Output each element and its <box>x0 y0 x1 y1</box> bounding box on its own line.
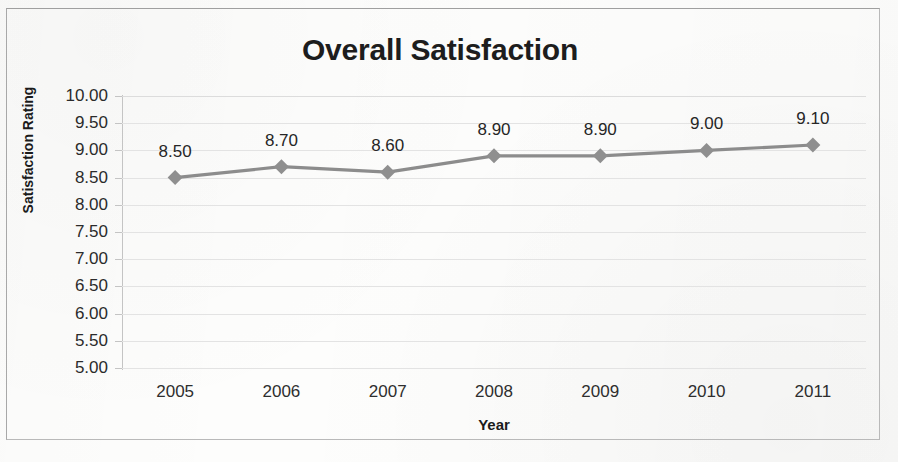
y-axis-tick-label: 5.50 <box>46 331 108 351</box>
y-axis-tick-label: 7.50 <box>46 222 108 242</box>
data-label: 9.10 <box>768 109 858 129</box>
data-point-marker <box>274 159 289 174</box>
chart-title: Overall Satisfaction <box>0 33 880 67</box>
x-axis-tick-label: 2008 <box>434 382 554 402</box>
x-axis-tick-label: 2009 <box>540 382 660 402</box>
y-axis-tick <box>115 341 122 342</box>
x-axis-tick-label: 2006 <box>221 382 341 402</box>
x-axis-tick-label: 2011 <box>753 382 873 402</box>
y-axis-title: Satisfaction Rating <box>20 60 36 240</box>
y-axis-tick <box>115 150 122 151</box>
y-axis-tick <box>115 314 122 315</box>
data-point-marker <box>593 148 608 163</box>
data-point-marker <box>487 148 502 163</box>
y-axis-tick-label: 9.50 <box>46 113 108 133</box>
y-axis-tick <box>115 368 122 369</box>
y-axis-tick <box>115 205 122 206</box>
chart-figure: Overall Satisfaction Satisfaction Rating… <box>0 0 898 462</box>
y-axis-tick-label: 8.50 <box>46 168 108 188</box>
y-axis-tick-label: 6.00 <box>46 304 108 324</box>
data-label: 8.50 <box>130 142 220 162</box>
y-axis-tick <box>115 123 122 124</box>
plot-area: 8.508.708.608.908.909.009.10 <box>122 96 866 368</box>
x-axis-tick-label: 2010 <box>647 382 767 402</box>
y-axis-tick <box>115 259 122 260</box>
y-axis-tick-labels: 10.009.509.008.508.007.507.006.506.005.5… <box>46 96 108 368</box>
data-label: 8.70 <box>236 131 326 151</box>
data-point-marker <box>699 143 714 158</box>
y-axis-tick-label: 7.00 <box>46 249 108 269</box>
x-axis-title: Year <box>122 416 866 433</box>
y-axis-tick <box>115 96 122 97</box>
y-axis-tick <box>115 286 122 287</box>
x-axis-tick-label: 2007 <box>328 382 448 402</box>
data-point-marker <box>168 170 183 185</box>
y-axis-tick-label: 10.00 <box>46 86 108 106</box>
data-point-marker <box>380 165 395 180</box>
y-axis-tick-label: 6.50 <box>46 276 108 296</box>
y-axis-tick-label: 8.00 <box>46 195 108 215</box>
y-axis-tick <box>115 232 122 233</box>
data-label: 9.00 <box>662 114 752 134</box>
gridline <box>122 368 866 369</box>
y-axis-tick-label: 9.00 <box>46 140 108 160</box>
y-axis-tick <box>115 178 122 179</box>
y-axis-tick-label: 5.00 <box>46 358 108 378</box>
data-point-marker <box>805 137 820 152</box>
data-label: 8.60 <box>343 136 433 156</box>
data-label: 8.90 <box>449 120 539 140</box>
x-axis-tick-label: 2005 <box>115 382 235 402</box>
data-label: 8.90 <box>555 120 645 140</box>
